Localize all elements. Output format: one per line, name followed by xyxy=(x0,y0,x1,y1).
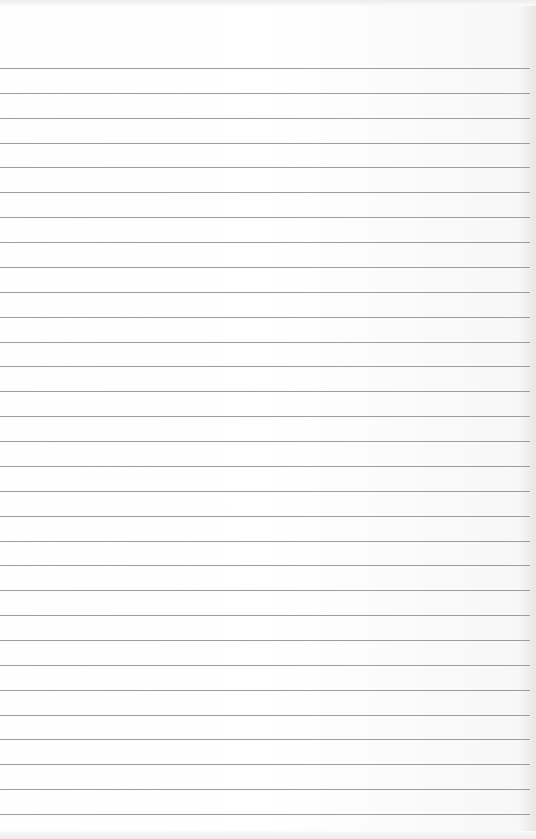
ruled-line xyxy=(0,317,530,318)
ruled-line xyxy=(0,391,530,392)
ruled-line xyxy=(0,93,530,94)
ruled-line xyxy=(0,541,530,542)
ruled-line xyxy=(0,416,530,417)
ruled-line xyxy=(0,242,530,243)
ruled-line xyxy=(0,267,530,268)
ruled-line xyxy=(0,167,530,168)
ruled-line xyxy=(0,192,530,193)
ruled-line xyxy=(0,715,530,716)
ruled-line xyxy=(0,665,530,666)
ruled-line xyxy=(0,118,530,119)
ruled-line xyxy=(0,789,530,790)
ruled-line xyxy=(0,292,530,293)
lined-paper-sheet xyxy=(0,0,536,839)
ruled-line xyxy=(0,640,530,641)
ruled-line xyxy=(0,814,530,815)
ruled-line xyxy=(0,466,530,467)
bottom-edge-shadow xyxy=(0,831,536,839)
ruled-line xyxy=(0,143,530,144)
ruled-line xyxy=(0,565,530,566)
ruled-line xyxy=(0,342,530,343)
ruled-line xyxy=(0,217,530,218)
ruled-line xyxy=(0,68,530,69)
ruled-line xyxy=(0,441,530,442)
ruled-line xyxy=(0,615,530,616)
ruled-line xyxy=(0,690,530,691)
ruled-line xyxy=(0,516,530,517)
ruled-line xyxy=(0,764,530,765)
ruled-line xyxy=(0,739,530,740)
ruled-line xyxy=(0,590,530,591)
ruled-line xyxy=(0,366,530,367)
top-edge-shadow xyxy=(0,0,536,6)
ruled-line xyxy=(0,491,530,492)
